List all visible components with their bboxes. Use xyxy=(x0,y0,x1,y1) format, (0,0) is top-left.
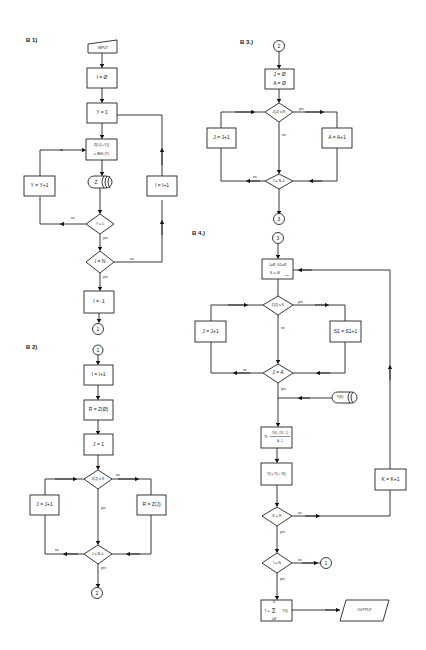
process-k-inc: K = K+1 xyxy=(375,469,406,490)
section-label-b2: B 2) xyxy=(26,344,37,350)
process-label: K = K+1 xyxy=(381,476,399,482)
connector-1-out: 1 xyxy=(93,324,104,335)
sum-term: T(I) xyxy=(282,609,287,613)
process-tk-calc: TK T(K) - (S1 - 1) A - 1 xyxy=(261,427,292,448)
branch-label-yes: yes xyxy=(101,566,106,570)
process-i-reset: I = -1 xyxy=(84,291,114,313)
flow-line xyxy=(45,515,84,554)
branch-label-yes: yes xyxy=(298,300,303,304)
flow-line xyxy=(211,305,263,321)
process-label: J = 1 xyxy=(93,441,104,447)
flow-line xyxy=(221,148,265,181)
decision-label: J = N+L xyxy=(92,552,104,556)
branch-label-no: no xyxy=(116,473,120,477)
process-a-inc: A = A+1 xyxy=(322,128,352,148)
decision-i-eq-n-b4: I = N xyxy=(262,553,292,573)
decision-j-eq-nl-b2: J = N+L xyxy=(84,545,112,564)
flow-line xyxy=(293,148,337,181)
connector-label: 1 xyxy=(97,326,100,332)
branch-label-no: no xyxy=(298,511,302,515)
flow-line xyxy=(112,479,151,495)
process-j-inc-b4: J = J+1 xyxy=(195,321,226,342)
input-label: INPUT xyxy=(98,46,109,50)
process-label-line1: Z(I,(L+Y)) xyxy=(94,143,109,147)
decision-label: Z(J) ≤ R xyxy=(92,477,105,481)
process-label: I = Ø xyxy=(97,74,108,80)
decision-label: Z(J) ≤ K xyxy=(272,303,285,307)
flow-line xyxy=(40,197,62,224)
flow-line xyxy=(293,270,390,469)
branch-label-no: no xyxy=(71,216,75,220)
process-label: J = J+1 xyxy=(36,501,53,507)
decision-j-eq-a: J = A xyxy=(263,364,293,383)
sum-lower: I=Ø xyxy=(272,617,276,621)
process-label: R = Z(J) xyxy=(142,501,161,507)
branch-label-yes: yes xyxy=(101,506,106,510)
decision-i-eq-n: I = N xyxy=(86,251,114,273)
process-label: J = J+1 xyxy=(213,134,230,140)
storage-tk-node: T(K) xyxy=(332,392,357,403)
process-label: I = I+1 xyxy=(155,182,169,188)
output-label: OUTPUT xyxy=(357,608,372,612)
process-label: S1 = S1+1 xyxy=(334,328,358,334)
section-label-b3: B 3.) xyxy=(240,39,253,45)
flow-line xyxy=(293,342,345,373)
connector-3-in: 3 xyxy=(273,233,284,244)
process-z-assign: Z(I,(L+Y)) = IMG (Y) xyxy=(86,139,117,160)
decision-j-eq-nl-b3: J = N+L xyxy=(265,174,293,189)
connector-label: 1 xyxy=(97,347,100,353)
branch-label-yes: yes xyxy=(281,387,286,391)
connector-2-out: 2 xyxy=(92,588,103,599)
decision-label: I = N xyxy=(95,258,106,264)
process-y-inc: Y = Y+1 xyxy=(24,176,55,196)
branch-label-no: no xyxy=(282,133,286,137)
connector-2-in: 2 xyxy=(274,41,285,52)
decision-k-eq-r: K = R xyxy=(262,507,292,526)
decision-label: K = R xyxy=(273,514,282,518)
process-j-inc-b2: J = J+1 xyxy=(30,495,59,515)
process-label: I = I+1 xyxy=(91,371,105,377)
flow-line xyxy=(112,515,151,554)
output-node: OUTPUT xyxy=(340,600,389,621)
decision-label: Y = L xyxy=(96,222,104,226)
branch-label-no: no xyxy=(281,326,285,330)
process-i-init: I = Ø xyxy=(87,68,117,88)
process-label: R = Z(Ø) xyxy=(89,406,109,412)
process-label-line1: J = Ø xyxy=(273,71,285,77)
storage-label: T(K) xyxy=(337,395,344,399)
process-b4-init: J=Ø, S1=Ø K = Gl min xyxy=(262,259,293,279)
section-label-b4: B 4.) xyxy=(192,230,205,236)
process-i-inc-b2: I = I+1 xyxy=(84,365,113,385)
process-r-set: R = Z(J) xyxy=(137,495,166,515)
branch-label-no: no xyxy=(55,548,59,552)
flow-line xyxy=(114,200,162,262)
decision-zj-le-r: Z(J) ≤ R xyxy=(84,470,112,489)
process-label: J = J+1 xyxy=(202,328,219,334)
calc-prefix: TK xyxy=(264,435,268,439)
connector-label: 2 xyxy=(96,590,99,596)
flow-line xyxy=(117,115,162,176)
process-label: I = -1 xyxy=(93,298,105,304)
process-label-subscript: min xyxy=(285,274,290,277)
process-label: A = A+1 xyxy=(328,134,346,140)
connector-label: 3 xyxy=(278,216,281,222)
branch-label-yes: yes xyxy=(103,236,108,240)
connector-label: 3 xyxy=(277,235,280,241)
process-label-line2: K = Gl xyxy=(270,271,280,275)
branch-label-no: no xyxy=(298,558,302,562)
process-label-line2: = IMG (Y) xyxy=(94,152,109,156)
branch-label-yes: yes xyxy=(299,107,304,111)
process-j-init: J = 1 xyxy=(84,434,113,455)
storage-z-node: Z xyxy=(88,176,112,188)
process-i-inc: I = I+1 xyxy=(147,176,177,196)
process-r-init: R = Z(Ø) xyxy=(84,400,113,420)
flow-line xyxy=(293,305,345,321)
process-y-init: Y = 1 xyxy=(87,103,117,123)
flow-line xyxy=(40,150,63,176)
input-node: INPUT xyxy=(88,40,117,53)
flow-line xyxy=(292,490,390,516)
decision-label: I = N xyxy=(273,561,281,565)
process-label-line1: J=Ø, S1=Ø xyxy=(269,263,287,267)
calc-denominator: A - 1 xyxy=(277,439,283,443)
process-ti-accum: T(I) = T(I) + T(K) xyxy=(261,463,292,485)
